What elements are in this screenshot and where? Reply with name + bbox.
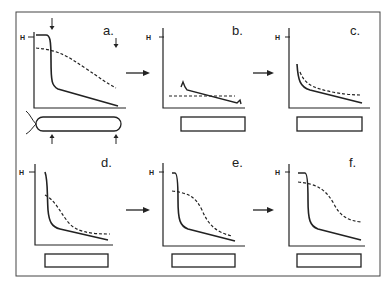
cell-capsule [36,117,121,131]
axes [289,28,370,108]
transition-arrow-icon [126,207,150,213]
down-arrow-icon [50,18,55,30]
solid-curve [172,173,235,241]
figure-canvas: a. H b [0,0,392,292]
cell-rectangle [45,254,108,267]
panel-label-b: b. [232,23,243,38]
figure-frame [16,12,380,276]
axis-label-h: H [146,34,151,41]
solid-curve [36,35,118,106]
cell-rectangle [172,254,235,267]
cell-rectangle [181,117,245,131]
cell-rectangle [297,117,362,131]
panel-label-d: d. [101,155,112,170]
solid-curve [45,172,108,240]
up-arrow-icon [114,134,119,144]
panel-b: b. H [146,23,245,131]
panel-label-e: e. [232,155,243,170]
up-arrow-icon [50,134,55,144]
dashed-curve [300,72,362,95]
panel-e: e. H [149,155,245,267]
solid-curve [297,64,362,103]
down-arrow-icon [114,38,119,48]
panel-label-f: f. [349,155,356,170]
panel-a: a. H [20,18,126,144]
axis-label-h: H [275,34,280,41]
panel-f: f. H [275,155,365,267]
transition-arrow-icon [253,207,274,213]
cell-rectangle [297,254,361,267]
dashed-curve [36,48,116,88]
axis-label-h: H [149,169,154,176]
axis-label-h: H [275,169,280,176]
dashed-curve [45,195,110,234]
transition-arrow-icon [253,70,274,76]
panel-label-c: c. [350,23,360,38]
axes [289,164,365,246]
transition-arrow-icon [126,70,150,76]
axes [34,32,126,108]
axis-label-h: H [19,169,24,176]
dashed-curve [172,191,232,236]
panel-c: c. H [275,23,370,131]
panel-d: d. H [19,155,113,267]
solid-curve [181,82,241,104]
axis-label-h: H [20,34,25,41]
solid-curve [298,173,361,240]
panel-label-a: a. [103,23,114,38]
